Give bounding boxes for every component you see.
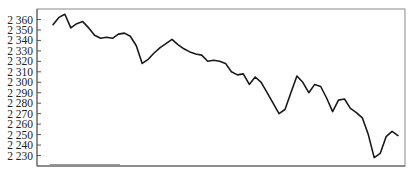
y-tick-label: 2 230 <box>7 150 33 162</box>
line-chart: 2 3602 3502 3402 3302 3202 3102 3002 290… <box>0 0 413 173</box>
y-axis-ticks: 2 3602 3502 3402 3302 3202 3102 3002 290… <box>7 14 41 162</box>
